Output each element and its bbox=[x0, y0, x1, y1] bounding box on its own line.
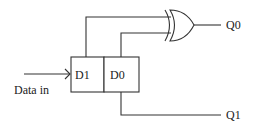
input-label-data-in: Data in bbox=[14, 83, 49, 97]
wire-d1-to-xor bbox=[86, 17, 171, 57]
output-label-q0: Q0 bbox=[226, 18, 241, 32]
cell-label-d1: D1 bbox=[75, 68, 90, 82]
wire-q1-output bbox=[121, 92, 221, 115]
xor-back-curve bbox=[165, 10, 170, 41]
output-label-q1: Q1 bbox=[226, 108, 241, 122]
circuit-diagram: D1 D0 Data in Q0 Q1 bbox=[0, 0, 253, 128]
xor-body bbox=[170, 10, 194, 41]
xor-gate bbox=[165, 10, 194, 41]
cell-label-d0: D0 bbox=[110, 68, 125, 82]
wire-d0-to-xor bbox=[121, 33, 171, 57]
